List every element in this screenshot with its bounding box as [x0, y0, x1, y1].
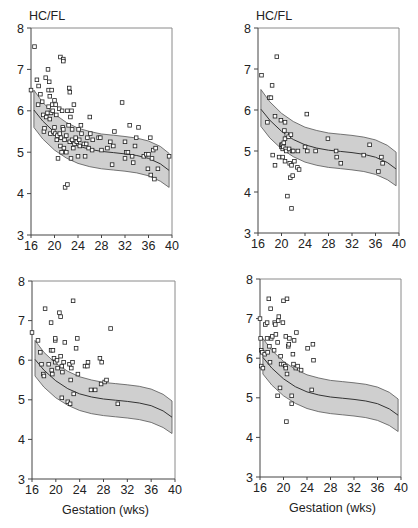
data-point-square: [283, 159, 287, 163]
data-point-square: [50, 88, 54, 92]
data-point-square: [282, 141, 286, 145]
data-point-square: [70, 138, 74, 142]
data-point-square: [368, 143, 372, 147]
data-point-square: [268, 345, 272, 349]
y-tick-label: 3: [246, 471, 253, 485]
y-axis-title: HC/FL: [29, 9, 65, 23]
data-point-square: [128, 124, 132, 128]
y-tick-label: 7: [18, 314, 25, 328]
data-point-square: [293, 159, 297, 163]
data-point-square: [266, 121, 270, 125]
data-point-square: [42, 374, 46, 378]
data-point-square: [259, 337, 263, 341]
data-point-square: [112, 144, 116, 148]
data-point-square: [312, 358, 316, 362]
data-point-square: [59, 136, 63, 140]
data-point-square: [291, 352, 295, 356]
data-point-square: [270, 84, 274, 88]
data-point-square: [133, 144, 137, 148]
data-point-square: [48, 117, 52, 121]
data-point-square: [58, 132, 62, 136]
data-point-square: [310, 388, 314, 392]
data-point-square: [303, 145, 307, 149]
data-point-square: [326, 137, 330, 141]
data-point-square: [72, 103, 76, 107]
data-point-square: [292, 339, 296, 343]
data-point-square: [287, 343, 291, 347]
data-point-square: [43, 126, 47, 130]
y-tick-label: 4: [244, 186, 251, 200]
x-tick-label: 32: [118, 239, 132, 253]
data-point-square: [274, 333, 278, 337]
x-tick-label: 36: [144, 483, 158, 497]
data-point-square: [35, 78, 39, 82]
data-point-square: [62, 128, 66, 132]
y-tick-label: 6: [246, 352, 253, 366]
data-point-square: [59, 354, 63, 358]
y-tick-label: 7: [17, 63, 24, 77]
panel-bottom-left: 34567816202428323640Gestation (wks): [18, 275, 182, 518]
x-tick-label: 36: [371, 481, 385, 495]
data-point-square: [87, 146, 91, 150]
data-point-square: [98, 356, 102, 360]
data-point-square: [283, 121, 287, 125]
x-tick-label: 40: [394, 481, 408, 495]
data-point-square: [276, 394, 280, 398]
data-point-square: [66, 109, 70, 113]
data-point-square: [123, 140, 127, 144]
data-point-square: [99, 382, 103, 386]
data-point-square: [269, 307, 273, 311]
y-tick-label: 8: [17, 22, 24, 36]
data-point-square: [292, 362, 296, 366]
data-point-square: [54, 103, 58, 107]
x-tick-label: 32: [347, 481, 361, 495]
data-point-square: [45, 115, 49, 119]
y-tick-label: 8: [244, 22, 251, 36]
data-point-square: [60, 150, 64, 154]
data-point-square: [72, 392, 76, 396]
x-tick-label: 16: [251, 237, 265, 251]
data-point-square: [70, 366, 74, 370]
data-point-square: [123, 157, 127, 161]
y-tick-label: 4: [17, 187, 24, 201]
data-point-square: [90, 148, 94, 152]
x-tick-label: 40: [165, 239, 179, 253]
data-point-square: [299, 368, 303, 372]
data-point-square: [278, 386, 282, 390]
data-point-square: [283, 129, 287, 133]
data-point-square: [51, 372, 55, 376]
x-tick-label: 20: [49, 483, 63, 497]
data-point-square: [65, 134, 69, 138]
x-axis-title: Gestation (wks): [289, 501, 376, 515]
data-point-square: [297, 168, 301, 172]
data-point-square: [69, 378, 73, 382]
data-point-square: [381, 162, 385, 166]
data-point-square: [68, 90, 72, 94]
data-point-square: [109, 140, 113, 144]
data-point-square: [362, 153, 366, 157]
x-tick-label: 28: [324, 481, 338, 495]
data-point-square: [53, 126, 57, 130]
data-point-square: [150, 157, 154, 161]
data-point-square: [47, 105, 51, 109]
data-point-square: [68, 402, 72, 406]
x-tick-label: 28: [95, 239, 109, 253]
data-point-square: [86, 364, 90, 368]
x-axis-title: Gestation (wks): [62, 503, 149, 517]
panel-bottom-right: 34567816202428323640Gestation (wks): [246, 273, 408, 516]
data-point-square: [149, 173, 153, 177]
x-tick-label: 40: [168, 483, 182, 497]
data-point-square: [59, 144, 63, 148]
data-point-square: [39, 92, 43, 96]
x-tick-label: 24: [71, 239, 85, 253]
x-tick-label: 24: [298, 237, 312, 251]
data-point-square: [377, 170, 381, 174]
x-tick-label: 20: [48, 239, 62, 253]
panel-top-left: 34567816202428323640HC/FL: [17, 9, 179, 253]
data-point-square: [50, 103, 54, 107]
data-point-square: [76, 155, 80, 159]
y-tick-label: 4: [246, 431, 253, 445]
data-point-square: [137, 126, 141, 130]
data-point-square: [79, 124, 83, 128]
data-point-square: [110, 163, 114, 167]
